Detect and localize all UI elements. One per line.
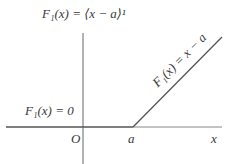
function-title-label: F₁(x) = ⟨x − a⟩¹ bbox=[42, 7, 126, 20]
x-axis-label: x bbox=[211, 132, 217, 145]
ramp-function-graph bbox=[0, 0, 235, 164]
a-label: a bbox=[128, 132, 135, 145]
origin-label: O bbox=[71, 132, 80, 145]
zero-region-label: F₁(x) = 0 bbox=[25, 104, 74, 117]
